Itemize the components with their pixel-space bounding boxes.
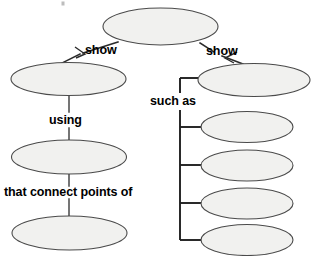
edge-line-show-left-lower [62,54,80,63]
edge-label-show-left: show [85,44,117,57]
concept-map-graphic [0,0,315,256]
node-sub-4[interactable] [201,225,293,256]
node-top[interactable] [103,8,218,45]
diagram-canvas: show show such as using that connect poi… [0,0,315,256]
node-left-2[interactable] [12,140,127,174]
edge-label-show-right: show [206,45,238,58]
edge-label-such-as: such as [150,95,196,108]
node-left-1[interactable] [11,63,126,96]
node-left-3[interactable] [12,216,127,250]
edge-label-that-connect-points-of: that connect points of [4,186,132,199]
edge-label-using: using [49,114,82,127]
node-sub-2[interactable] [201,150,293,181]
node-sub-3[interactable] [201,188,293,219]
node-right-main[interactable] [198,64,310,97]
scan-speck [62,2,65,6]
node-sub-1[interactable] [201,112,293,143]
